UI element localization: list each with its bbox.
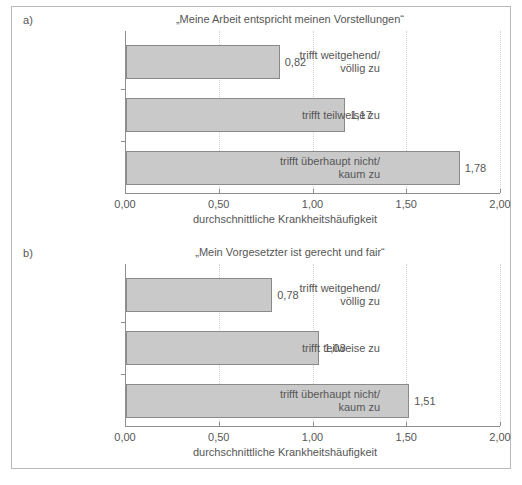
x-axis-tick-label: 1,50 (396, 198, 417, 210)
y-axis-tick (121, 374, 125, 375)
x-axis-tick (500, 189, 501, 193)
x-axis-tick-label: 1,50 (396, 431, 417, 443)
x-axis-tick-label: 0,00 (114, 431, 135, 443)
figure-container: a) „Meine Arbeit entspricht meinen Vorst… (0, 0, 522, 485)
y-axis-tick (121, 89, 125, 90)
chart-panel-a: a) „Meine Arbeit entspricht meinen Vorst… (11, 6, 511, 237)
x-axis-line-a (125, 193, 500, 194)
x-axis-tick-label: 2,00 (489, 431, 510, 443)
x-axis-tick-label: 0,00 (114, 198, 135, 210)
x-axis-tick (313, 422, 314, 426)
x-axis-tick (219, 189, 220, 193)
x-axis-tick-label: 1,00 (302, 431, 323, 443)
x-axis-tick (125, 189, 126, 193)
bar (126, 45, 280, 79)
x-axis-tick (406, 189, 407, 193)
category-label: trifft überhaupt nicht/ kaum zu (272, 388, 380, 414)
x-axis-tick-label: 0,50 (208, 431, 229, 443)
bar-value-label: 1,78 (465, 162, 486, 174)
x-axis-tick-label: 1,00 (302, 198, 323, 210)
y-axis-tick (121, 141, 125, 142)
x-axis-caption-a: durchschnittliche Krankheitshäufigkeit (11, 213, 511, 225)
x-axis-tick (219, 422, 220, 426)
y-axis-tick (121, 322, 125, 323)
x-axis-tick-label: 2,00 (489, 198, 510, 210)
x-axis-tick (500, 422, 501, 426)
category-label: trifft teilweise zu (272, 342, 380, 355)
x-axis-tick-label: 0,50 (208, 198, 229, 210)
plot-area-a: 0,000,501,001,502,000,82trifft weitgehen… (125, 36, 500, 194)
panel-title-a: „Meine Arbeit entspricht meinen Vorstell… (11, 13, 511, 25)
chart-panel-b: b) „Mein Vorgesetzter ist gerecht und fa… (11, 239, 511, 470)
panel-title-b: „Mein Vorgesetzter ist gerecht und fair“ (11, 246, 511, 258)
x-axis-tick (313, 189, 314, 193)
gridline (500, 264, 501, 426)
category-label: trifft teilweise zu (272, 109, 380, 122)
x-axis-tick (125, 422, 126, 426)
category-label: trifft weitgehend/ völlig zu (272, 49, 380, 75)
x-axis-line-b (125, 426, 500, 427)
x-axis-tick (406, 422, 407, 426)
gridline (500, 31, 501, 193)
category-label: trifft weitgehend/ völlig zu (272, 282, 380, 308)
x-axis-caption-b: durchschnittliche Krankheitshäufigkeit (11, 446, 511, 458)
bar (126, 278, 272, 312)
plot-area-b: 0,000,501,001,502,000,78trifft weitgehen… (125, 269, 500, 427)
bar-value-label: 1,51 (414, 395, 435, 407)
category-label: trifft überhaupt nicht/ kaum zu (272, 155, 380, 181)
